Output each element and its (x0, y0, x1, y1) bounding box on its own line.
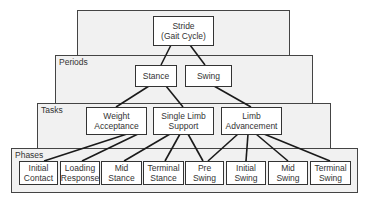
node-terminal-stance: Terminal Stance (143, 161, 184, 185)
periods-band: Periods (55, 55, 313, 104)
node-stride: Stride (Gait Cycle) (153, 16, 214, 46)
node-pre-swing: Pre Swing (185, 161, 224, 185)
periods-label: Periods (59, 57, 88, 67)
node-loading-response: Loading Response (60, 161, 100, 185)
node-initial-contact: Initial Contact (19, 161, 58, 185)
node-swing: Swing (185, 65, 232, 87)
tasks-label: Tasks (41, 105, 63, 115)
node-stance: Stance (135, 65, 177, 87)
node-initial-swing: Initial Swing (226, 161, 266, 185)
node-mid-swing: Mid Swing (268, 161, 308, 185)
phases-label: Phases (15, 150, 43, 160)
node-limb-advancement: Limb Advancement (221, 107, 282, 135)
node-weight-acceptance: Weight Acceptance (86, 107, 147, 135)
node-terminal-swing: Terminal Swing (310, 161, 351, 185)
node-mid-stance: Mid Stance (101, 161, 142, 185)
node-single-limb-support: Single Limb Support (153, 107, 214, 135)
